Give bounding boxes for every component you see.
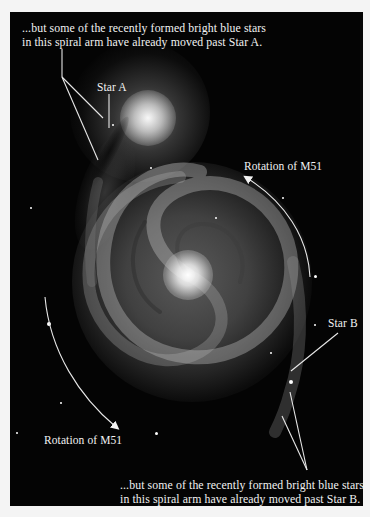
annotation-lines <box>10 12 363 506</box>
caption-top: ...but some of the recently formed brigh… <box>22 21 266 49</box>
rotation-upper-label: Rotation of M51 <box>244 160 322 174</box>
caption-top-line1: ...but some of the recently formed brigh… <box>22 21 266 35</box>
caption-top-line2: in this spiral arm have already moved pa… <box>22 35 266 49</box>
star-b-label: Star B <box>328 317 358 331</box>
caption-bottom-line2: in this spiral arm have already moved pa… <box>120 492 363 506</box>
caption-bottom-line1: ...but some of the recently formed brigh… <box>120 478 363 492</box>
caption-bottom: ...but some of the recently formed brigh… <box>120 478 363 506</box>
galaxy-image: ...but some of the recently formed brigh… <box>10 12 363 506</box>
star-a-label: Star A <box>97 81 127 95</box>
rotation-lower-label: Rotation of M51 <box>44 434 122 448</box>
